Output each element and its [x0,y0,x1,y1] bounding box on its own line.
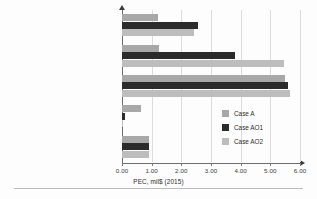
legend-item: Case AO2 [222,136,263,147]
bar-group: Liquefaction of the air [122,101,300,131]
bar-case-ao1 [122,22,198,29]
bar-group: others [122,10,300,40]
x-axis-title: PEC, mil$ (2015) [0,178,317,185]
bar-case-ao2 [122,90,290,97]
bar-case-ao1 [122,52,235,59]
x-axis-tick [122,163,123,166]
x-axis-tick-label: 6.00 [294,167,306,174]
bar-case-ao1 [122,143,149,150]
x-axis-line [122,163,302,164]
x-axis-tick [270,163,271,166]
legend-label: Case AO1 [234,124,263,131]
legend-item: Case AO1 [222,122,263,133]
x-axis-tick-label: 0.00 [116,167,128,174]
legend-label: Case A [234,110,255,117]
bar-group: Nitrogen liquefaction block [122,40,300,70]
bar-case-ao1 [122,113,125,120]
x-axis-tick-label: 2.00 [175,167,187,174]
bar-group: Column block [122,71,300,101]
gridline [300,10,301,162]
plot-area: othersNitrogen liquefaction blockColumn … [122,10,300,162]
x-axis-tick-label: 1.00 [145,167,157,174]
x-axis-tick [300,163,301,166]
x-axis-tick-label: 5.00 [264,167,276,174]
bar-case-a [122,45,159,52]
x-axis-tick-label: 3.00 [205,167,217,174]
chart-figure: 0.001.002.003.004.005.006.00 othersNitro… [0,0,317,199]
x-axis-tick [241,163,242,166]
bar-case-ao2 [122,60,284,67]
bar-case-a [122,75,285,82]
bar-case-ao2 [122,29,194,36]
x-axis-tick-label: 4.00 [234,167,246,174]
legend-label: Case AO2 [234,138,263,145]
x-axis-tick [211,163,212,166]
legend-item: Case A [222,108,263,119]
legend-swatch-icon [222,110,229,117]
x-axis-tick [181,163,182,166]
legend: Case ACase AO1Case AO2 [222,108,263,150]
bar-case-a [122,105,141,112]
bar-case-a [122,14,158,21]
bar-case-ao1 [122,82,288,89]
x-axis-tick [152,163,153,166]
bar-case-a [122,136,149,143]
bottom-divider [14,188,303,189]
bar-case-ao2 [122,151,149,158]
bar-group: Air compression and purification block [122,132,300,162]
legend-swatch-icon [222,138,229,145]
bar-case-ao2 [122,120,123,127]
legend-swatch-icon [222,124,229,131]
